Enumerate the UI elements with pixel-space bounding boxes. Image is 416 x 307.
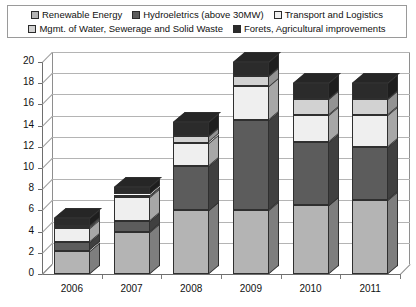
x-tick-mark (161, 275, 162, 279)
bar-segment-side-2011-0 (388, 191, 398, 274)
legend-item-water-sewerage-waste: Mgmt. of Water, Sewerage and Solid Waste (28, 24, 223, 34)
bar-segment-2006-2[interactable] (54, 228, 90, 242)
y-tick-label: 0 (8, 268, 34, 278)
y-tick-label: 8 (8, 183, 34, 193)
x-tick-mark (400, 275, 401, 279)
bar-segment-2010-4[interactable] (293, 83, 329, 99)
legend-swatch-transport-logistics (274, 11, 282, 19)
legend-item-hydroelectrics: Hydroeletrics (above 30MW) (132, 10, 263, 20)
bar-segment-2008-2[interactable] (173, 143, 209, 166)
bar-segment-2006-1[interactable] (54, 242, 90, 250)
y-tick-label: 6 (8, 204, 34, 214)
bar-segment-2010-3[interactable] (293, 99, 329, 115)
y-tick-label: 20 (8, 56, 34, 66)
x-tick-label-2010: 2010 (288, 283, 334, 294)
bar-2007[interactable] (114, 42, 150, 274)
y-tick-mark (38, 232, 42, 233)
y-tick-label: 18 (8, 77, 34, 87)
bar-segment-2006-4[interactable] (54, 218, 90, 226)
y-tick-label: 12 (8, 141, 34, 151)
bar-segment-2009-3[interactable] (233, 76, 269, 87)
bar-segment-2007-0[interactable] (114, 232, 150, 274)
legend-label-hydroelectrics: Hydroeletrics (above 30MW) (143, 10, 263, 20)
bar-2009[interactable] (233, 42, 269, 274)
bar-segment-2009-1[interactable] (233, 120, 269, 210)
legend-swatch-renewable-energy (31, 11, 39, 19)
y-tick-mark (38, 168, 42, 169)
x-tick-label-2009: 2009 (228, 283, 274, 294)
y-tick-mark (38, 253, 42, 254)
bar-2010[interactable] (293, 42, 329, 274)
bar-2006[interactable] (54, 42, 90, 274)
x-tick-mark (340, 275, 341, 279)
bar-segment-2010-1[interactable] (293, 142, 329, 206)
bar-segment-2011-4[interactable] (352, 83, 388, 99)
legend-label-water-sewerage-waste: Mgmt. of Water, Sewerage and Solid Waste (39, 24, 223, 34)
x-tick-label-2007: 2007 (109, 283, 155, 294)
bar-segment-2007-3[interactable] (114, 195, 150, 197)
bar-segment-2010-2[interactable] (293, 115, 329, 142)
y-tick-label: 14 (8, 120, 34, 130)
bar-segment-2007-2[interactable] (114, 197, 150, 221)
x-tick-mark (221, 275, 222, 279)
floor-depth-line (400, 264, 411, 275)
y-tick-label: 10 (8, 162, 34, 172)
bar-2008[interactable] (173, 42, 209, 274)
chart-legend: Renewable Energy Hydroeletrics (above 30… (7, 5, 407, 38)
bar-segment-side-2011-1 (388, 138, 398, 199)
bar-segment-side-2009-1 (269, 112, 279, 210)
y-tick-label: 16 (8, 98, 34, 108)
bar-segment-2009-4[interactable] (233, 62, 269, 76)
legend-row-1: Renewable Energy Hydroeletrics (above 30… (8, 8, 406, 22)
bar-segment-2007-4[interactable] (114, 187, 150, 194)
legend-label-forests-agriculture: Forets, Agricultural improvements (244, 24, 386, 34)
bar-segment-2011-2[interactable] (352, 115, 388, 147)
bar-segment-2006-3[interactable] (54, 226, 90, 228)
bar-segment-side-2009-0 (269, 202, 279, 274)
bar-segment-2011-3[interactable] (352, 99, 388, 115)
bar-segment-2006-0[interactable] (54, 251, 90, 274)
x-tick-label-2006: 2006 (49, 283, 95, 294)
y-tick-mark (38, 62, 42, 63)
y-tick-mark (38, 147, 42, 148)
legend-swatch-forests-agriculture (233, 25, 241, 33)
legend-item-forests-agriculture: Forets, Agricultural improvements (233, 24, 386, 34)
bar-segment-2009-2[interactable] (233, 86, 269, 120)
legend-item-transport-logistics: Transport and Logistics (274, 10, 383, 20)
bar-segment-2011-1[interactable] (352, 147, 388, 200)
legend-label-transport-logistics: Transport and Logistics (285, 10, 383, 20)
legend-item-renewable-energy: Renewable Energy (31, 10, 122, 20)
bar-segment-2011-0[interactable] (352, 200, 388, 274)
y-tick-mark (38, 210, 42, 211)
bar-segment-2008-0[interactable] (173, 210, 209, 274)
legend-swatch-hydroelectrics (132, 11, 140, 19)
chart-plot: 02468101214161820 2006200720082009201020… (0, 42, 416, 307)
legend-label-renewable-energy: Renewable Energy (42, 10, 122, 20)
bar-segment-side-2008-0 (209, 202, 219, 274)
y-tick-label: 4 (8, 226, 34, 236)
bar-segment-2010-0[interactable] (293, 205, 329, 274)
bar-2011[interactable] (352, 42, 388, 274)
bar-segment-2008-3[interactable] (173, 136, 209, 142)
y-tick-mark (38, 83, 42, 84)
y-tick-label: 2 (8, 247, 34, 257)
y-tick-mark (38, 104, 42, 105)
bar-segment-2009-0[interactable] (233, 210, 269, 274)
legend-swatch-water-sewerage-waste (28, 25, 36, 33)
y-tick-mark (38, 126, 42, 127)
x-tick-mark (102, 275, 103, 279)
bar-segment-side-2010-0 (329, 197, 339, 274)
legend-row-2: Mgmt. of Water, Sewerage and Solid Waste… (8, 22, 406, 36)
y-tick-mark (38, 274, 42, 275)
bar-segment-2007-1[interactable] (114, 221, 150, 232)
y-tick-mark (38, 189, 42, 190)
x-tick-label-2008: 2008 (168, 283, 214, 294)
bar-segment-side-2007-0 (150, 223, 160, 274)
bar-segment-2008-4[interactable] (173, 122, 209, 136)
x-tick-mark (281, 275, 282, 279)
bar-segment-side-2010-1 (329, 133, 339, 205)
x-tick-label-2011: 2011 (347, 283, 393, 294)
bar-segment-side-2008-1 (209, 157, 219, 210)
bar-segment-2008-1[interactable] (173, 166, 209, 211)
